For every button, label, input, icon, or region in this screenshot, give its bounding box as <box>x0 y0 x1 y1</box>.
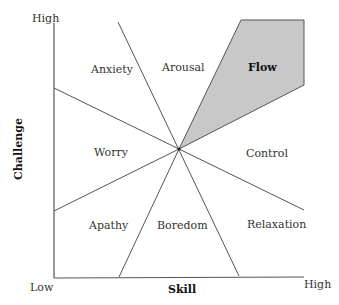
divider-line <box>119 149 179 277</box>
x-axis-title: Skill <box>168 283 196 296</box>
flow-diagram: High Low High Skill Challenge Anxiety Ar… <box>0 0 339 305</box>
center-point <box>178 148 181 151</box>
y-high-label: High <box>32 12 59 25</box>
region-arousal: Arousal <box>161 61 205 74</box>
region-anxiety: Anxiety <box>90 63 134 76</box>
region-worry: Worry <box>94 146 129 159</box>
x-high-label: High <box>304 278 331 291</box>
y-axis-title: Challenge <box>12 118 25 180</box>
region-apathy: Apathy <box>88 219 129 232</box>
x-low-label: Low <box>30 281 54 294</box>
x-axis <box>54 277 304 278</box>
region-flow: Flow <box>248 61 277 74</box>
flow-region <box>179 20 304 149</box>
region-boredom: Boredom <box>157 219 208 232</box>
region-relaxation: Relaxation <box>247 218 306 231</box>
region-control: Control <box>246 147 288 160</box>
